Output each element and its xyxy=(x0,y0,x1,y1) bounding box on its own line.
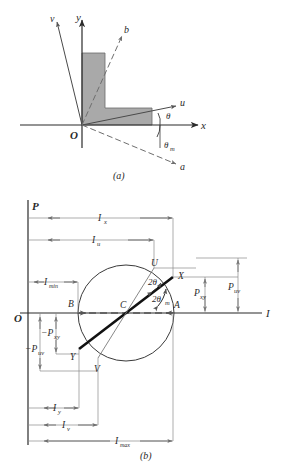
dim-Iy-sub: y xyxy=(57,408,61,415)
point-X-label: X xyxy=(177,271,185,281)
v-axis-label: v xyxy=(50,13,55,24)
caption-a: (a) xyxy=(113,170,125,182)
point-C-label: C xyxy=(120,300,127,310)
dim-neg-Pxy-sub: xy xyxy=(53,333,60,340)
dim-neg-Pxy-base: −P xyxy=(41,328,53,338)
point-A-label: A xyxy=(173,300,180,310)
a-axis-label: a xyxy=(180,161,185,172)
two-theta-m-base: 2θ xyxy=(152,294,162,304)
theta-m-sub: m xyxy=(170,145,175,152)
b-axis-label: b xyxy=(124,24,129,35)
dim-Pxy-base: P xyxy=(193,288,200,298)
dim-Puv-sub: uv xyxy=(234,287,240,294)
dim-neg-Puv-sub: uv xyxy=(38,349,44,356)
origin-label-a: O xyxy=(70,129,78,141)
x-axis-label: x xyxy=(200,119,206,131)
figure-container: y x u v a b O θ θ m (a) xyxy=(0,0,282,466)
point-U-label: U xyxy=(151,258,159,268)
theta-m-base: θ xyxy=(164,140,169,150)
dim-Iv-sub: v xyxy=(67,425,70,432)
y-axis-label: y xyxy=(75,11,81,23)
dim-Ix-sub: x xyxy=(103,218,107,225)
dim-Imax-sub: max xyxy=(120,442,130,448)
dim-Imin-sub: min xyxy=(49,283,58,289)
two-theta-m-sub: m xyxy=(165,299,170,306)
dim-neg-Puv-base: −P xyxy=(25,344,37,354)
page-background xyxy=(0,0,282,466)
P-axis-label: P xyxy=(32,200,39,212)
caption-b: (b) xyxy=(140,450,152,462)
origin-label-b: O xyxy=(14,312,22,324)
u-axis-label: u xyxy=(180,97,185,108)
mohr-circle-figure: y x u v a b O θ θ m (a) xyxy=(0,0,282,466)
dim-Puv-base: P xyxy=(227,282,234,292)
theta-label: θ xyxy=(166,111,171,121)
two-theta-label: 2θ xyxy=(148,277,158,287)
dim-Pxy-sub: xy xyxy=(199,293,206,300)
point-B-label: B xyxy=(68,299,74,309)
